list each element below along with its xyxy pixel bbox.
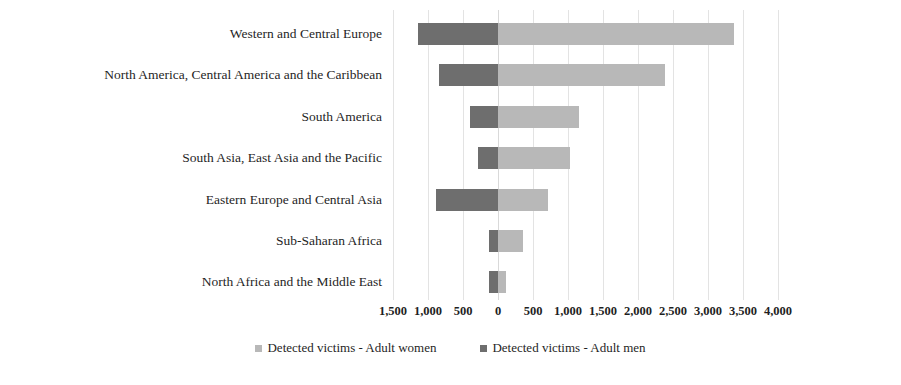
- legend-swatch-icon: [255, 345, 262, 352]
- plot-area: [393, 10, 863, 300]
- diverging-bar-chart: Western and Central EuropeNorth America,…: [0, 0, 901, 385]
- bar-segment-adult-women: [498, 106, 579, 128]
- bar-row: [393, 97, 863, 138]
- category-label: South America: [0, 110, 382, 124]
- bar-segment-adult-women: [498, 271, 506, 293]
- bar-segment-adult-men: [418, 23, 499, 45]
- category-label: Eastern Europe and Central Asia: [0, 193, 382, 207]
- bar-row: [393, 180, 863, 221]
- bar-row: [393, 138, 863, 179]
- value-tick-label: 3,500: [729, 303, 757, 319]
- legend-item[interactable]: Detected victims - Adult men: [480, 340, 645, 356]
- bar-row: [393, 55, 863, 96]
- value-tick-label: 3,000: [694, 303, 722, 319]
- category-label: North America, Central America and the C…: [0, 68, 382, 82]
- value-tick-label: 2,000: [624, 303, 652, 319]
- value-tick-label: 1,000: [414, 303, 442, 319]
- category-label: Western and Central Europe: [0, 27, 382, 41]
- bar-segment-adult-men: [470, 106, 498, 128]
- bar-segment-adult-women: [498, 189, 548, 211]
- category-axis: Western and Central EuropeNorth America,…: [0, 10, 382, 300]
- value-tick-label: 4,000: [764, 303, 792, 319]
- value-tick-label: 1,000: [554, 303, 582, 319]
- value-tick-label: 1,500: [589, 303, 617, 319]
- bar-segment-adult-women: [498, 147, 570, 169]
- chart-legend: Detected victims - Adult womenDetected v…: [0, 340, 901, 356]
- bar-segment-adult-men: [436, 189, 498, 211]
- bar-segment-adult-women: [498, 23, 734, 45]
- bar-segment-adult-men: [478, 147, 498, 169]
- legend-label: Detected victims - Adult women: [267, 340, 436, 356]
- value-tick-label: 500: [524, 303, 543, 319]
- legend-label: Detected victims - Adult men: [492, 340, 645, 356]
- category-label: South Asia, East Asia and the Pacific: [0, 151, 382, 165]
- bar-segment-adult-women: [498, 230, 523, 252]
- legend-swatch-icon: [480, 345, 487, 352]
- bar-rows: [393, 10, 863, 300]
- bar-row: [393, 14, 863, 55]
- category-label: Sub-Saharan Africa: [0, 234, 382, 248]
- value-tick-label: 0: [495, 303, 501, 319]
- bar-segment-adult-men: [439, 64, 498, 86]
- bar-row: [393, 221, 863, 262]
- bar-segment-adult-men: [489, 230, 498, 252]
- value-axis-tick-labels: 1,5001,00050005001,0001,5002,0002,5003,0…: [0, 303, 901, 323]
- legend-item[interactable]: Detected victims - Adult women: [255, 340, 436, 356]
- bar-row: [393, 262, 863, 303]
- bar-segment-adult-men: [489, 271, 498, 293]
- value-tick-label: 500: [454, 303, 473, 319]
- bar-segment-adult-women: [498, 64, 665, 86]
- value-tick-label: 1,500: [379, 303, 407, 319]
- category-label: North Africa and the Middle East: [0, 275, 382, 289]
- value-tick-label: 2,500: [659, 303, 687, 319]
